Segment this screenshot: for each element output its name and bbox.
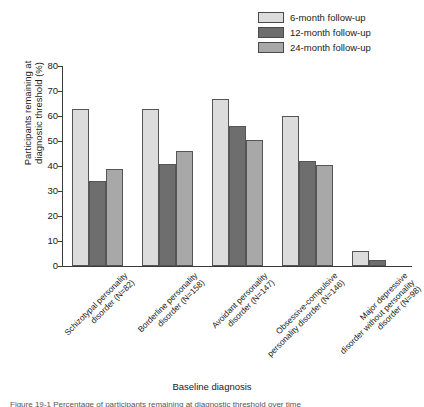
- bar-group: [272, 66, 342, 266]
- y-axis-tick-label: 70: [34, 86, 58, 96]
- legend-label-12-month: 12-month follow-up: [290, 27, 371, 38]
- bar: [246, 140, 263, 266]
- bar: [316, 165, 333, 266]
- bar-group: [342, 66, 412, 266]
- figure: 6-month follow-up 12-month follow-up 24-…: [0, 0, 424, 407]
- legend-item-12-month: 12-month follow-up: [258, 26, 371, 39]
- y-axis-tick-label: 40: [34, 161, 58, 171]
- bar-group: [62, 66, 132, 266]
- plot-area: [62, 66, 412, 266]
- y-axis-tick-label: 60: [34, 111, 58, 121]
- bar-group: [202, 66, 272, 266]
- bar: [352, 251, 369, 266]
- bar: [72, 109, 89, 267]
- legend-label-6-month: 6-month follow-up: [290, 12, 366, 23]
- bar-group: [132, 66, 202, 266]
- bar: [106, 169, 123, 267]
- x-axis-line: [62, 266, 412, 267]
- legend-swatch-6-month: [258, 12, 284, 23]
- y-axis-tick-label: 80: [34, 61, 58, 71]
- y-axis-tick-label: 10: [34, 236, 58, 246]
- legend-item-24-month: 24-month follow-up: [258, 41, 371, 54]
- bar: [299, 161, 316, 266]
- bar: [212, 99, 229, 267]
- y-axis-tick-label: 30: [34, 186, 58, 196]
- bar: [89, 181, 106, 266]
- legend-item-6-month: 6-month follow-up: [258, 11, 371, 24]
- bar: [142, 109, 159, 267]
- legend-swatch-24-month: [258, 42, 284, 53]
- y-axis-tick-label: 50: [34, 136, 58, 146]
- bar: [176, 151, 193, 266]
- legend-swatch-12-month: [258, 27, 284, 38]
- chart-legend: 6-month follow-up 12-month follow-up 24-…: [258, 11, 371, 54]
- bar: [282, 116, 299, 266]
- y-axis-tick-label: 20: [34, 211, 58, 221]
- legend-label-24-month: 24-month follow-up: [290, 42, 371, 53]
- bar: [159, 164, 176, 267]
- y-axis-tick-label: 0: [34, 261, 58, 271]
- bar: [369, 260, 386, 266]
- bar: [229, 126, 246, 266]
